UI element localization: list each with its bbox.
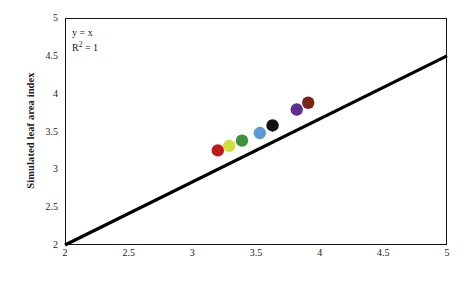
x-tick-label: 4: [300, 248, 340, 258]
y-tick-label: 2.5: [10, 202, 58, 212]
yellow-green-point: [223, 140, 235, 152]
annotation-r-squared: R2 = 1: [72, 40, 98, 55]
red-point: [212, 144, 224, 156]
annotation-block: y = x R2 = 1: [72, 26, 98, 54]
r-squared-value: = 1: [82, 42, 98, 53]
y-tick-label: 4.5: [10, 51, 58, 61]
green-point: [236, 134, 248, 146]
blue-point: [254, 127, 266, 139]
plot-canvas: [65, 18, 447, 245]
y-tick-label: 3.5: [10, 127, 58, 137]
annotation-equation: y = x: [72, 26, 98, 40]
r-squared-base: R: [72, 42, 79, 53]
scatter-chart-figure: Simulated leaf area index y = x R2 = 1 2…: [0, 0, 470, 287]
y-tick-label: 4: [10, 89, 58, 99]
y-tick-label: 5: [10, 13, 58, 23]
x-tick-label: 3: [172, 248, 212, 258]
black-point: [266, 119, 278, 131]
one-to-one-line: [65, 56, 447, 245]
x-tick-label: 2: [45, 248, 85, 258]
x-tick-label: 2.5: [109, 248, 149, 258]
x-tick-label: 4.5: [363, 248, 403, 258]
y-tick-label: 3: [10, 164, 58, 174]
dark-red-point: [302, 97, 314, 109]
purple-point: [291, 103, 303, 115]
x-tick-label: 5: [427, 248, 467, 258]
x-tick-label: 3.5: [236, 248, 276, 258]
one-to-one-line: [65, 56, 447, 245]
